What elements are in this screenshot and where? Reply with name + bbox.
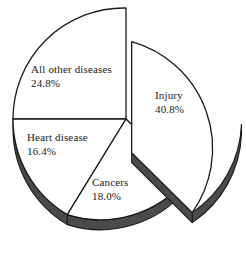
slice-label-name: Injury xyxy=(155,89,184,103)
slice-label-percent: 24.8% xyxy=(31,77,112,91)
pie-chart: All other diseases 24.8% Injury 40.8% He… xyxy=(0,0,246,260)
slice-label-percent: 40.8% xyxy=(155,103,184,117)
pie-chart-canvas xyxy=(0,0,246,260)
slice-label-all-other-diseases: All other diseases 24.8% xyxy=(31,63,112,90)
slice-label-cancers: Cancers 18.0% xyxy=(92,176,128,203)
slice-label-injury: Injury 40.8% xyxy=(155,89,184,116)
slice-label-heart-disease: Heart disease 16.4% xyxy=(27,131,88,158)
slice-label-name: Heart disease xyxy=(27,131,88,145)
slice-label-name: Cancers xyxy=(92,176,128,190)
slice-label-percent: 18.0% xyxy=(92,190,128,204)
slice-label-name: All other diseases xyxy=(31,63,112,77)
slice-label-percent: 16.4% xyxy=(27,145,88,159)
